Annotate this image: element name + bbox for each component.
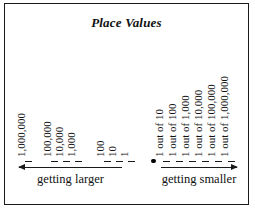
getting-larger-label: getting larger <box>19 172 122 187</box>
decimal-point <box>151 159 156 164</box>
getting-smaller-arrow: getting smaller <box>161 164 237 194</box>
fractional_places-tick <box>189 161 196 163</box>
fractional_places-label: 1 out of 10,000 <box>193 90 204 157</box>
whole_number_places-tick <box>104 161 111 163</box>
arrow-head-right-icon <box>231 164 238 170</box>
whole_number_places-tick <box>128 161 135 163</box>
getting-larger-arrow: getting larger <box>19 164 122 194</box>
fractional_places-label: 1 out of 1,000 <box>180 95 191 157</box>
whole_number_places-label: 1,000,000 <box>16 113 27 157</box>
fractional_places-tick <box>163 161 170 163</box>
whole_number_places-tick <box>25 161 32 163</box>
fractional_places-label: 1 out of 1,000,000 <box>219 76 230 157</box>
arrow-line <box>161 167 237 168</box>
whole_number_places-label: 100 <box>95 141 106 158</box>
whole_number_places-tick <box>63 161 70 163</box>
whole_number_places-label: 100,000 <box>42 121 53 157</box>
fractional_places-tick <box>228 161 235 163</box>
fractional_places-tick <box>215 161 222 163</box>
whole_number_places-label: 1,000 <box>66 132 77 157</box>
place-values-figure: Place Values 1,000,000100,00010,0001,000… <box>4 3 249 205</box>
getting-smaller-label: getting smaller <box>161 172 237 187</box>
whole_number_places-label: 10,000 <box>54 127 65 157</box>
fractional_places-label: 1 out of 100,000 <box>206 84 217 157</box>
arrow-head-left-icon <box>18 164 25 170</box>
whole_number_places-tick <box>51 161 58 163</box>
fractional_places-label: 1 out of 100 <box>167 104 178 157</box>
fractional_places-tick <box>176 161 183 163</box>
whole_number_places-tick <box>75 161 82 163</box>
arrow-line <box>19 167 122 168</box>
fractional_places-tick <box>202 161 209 163</box>
whole_number_places-label: 10 <box>107 146 118 157</box>
whole_number_places-label: 1 <box>119 152 130 158</box>
whole_number_places-tick <box>116 161 123 163</box>
fractional_places-label: 1 out of 10 <box>154 109 165 157</box>
